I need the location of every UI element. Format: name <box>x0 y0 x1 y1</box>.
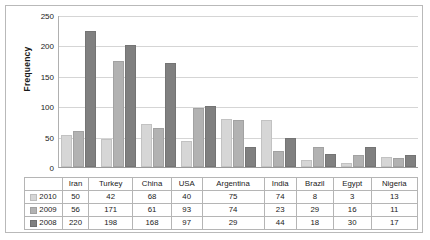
cell-2010-egypt: 3 <box>333 191 371 204</box>
cell-2010-turkey: 42 <box>89 191 133 204</box>
bar-turkey-2009 <box>113 61 124 167</box>
bar-group-india <box>258 16 298 167</box>
cell-2010-usa: 40 <box>171 191 202 204</box>
bar-egypt-2010 <box>341 163 352 167</box>
bar-egypt-2009 <box>353 155 364 167</box>
bar-usa-2009 <box>193 108 204 167</box>
y-tick-150: 150 <box>24 72 54 81</box>
data-table: IranTurkeyChinaUSAArgentinaIndiaBrazilEg… <box>24 177 418 230</box>
cell-2008-argentina: 29 <box>202 217 264 230</box>
bar-brazil-2010 <box>301 160 312 167</box>
table-col-header-turkey: Turkey <box>89 178 133 191</box>
table-col-header-china: China <box>133 178 172 191</box>
bar-group-egypt <box>338 16 378 167</box>
cell-2009-nigeria: 11 <box>371 204 417 217</box>
bar-nigeria-2010 <box>381 157 392 167</box>
cell-2009-argentina: 74 <box>202 204 264 217</box>
legend-cell-2008: 2008 <box>25 217 63 230</box>
table-body: 2010504268407574831320095617161937423291… <box>25 191 418 230</box>
table-col-header-brazil: Brazil <box>296 178 333 191</box>
cell-2009-turkey: 171 <box>89 204 133 217</box>
chart-frame: Frequency 250200150100500 IranTurkeyChin… <box>5 5 423 233</box>
table-col-header-usa: USA <box>171 178 202 191</box>
legend-cell-2010: 2010 <box>25 191 63 204</box>
bar-group-china <box>139 16 179 167</box>
cell-2008-india: 44 <box>264 217 296 230</box>
table-col-header-india: India <box>264 178 296 191</box>
cell-2009-india: 23 <box>264 204 296 217</box>
bar-group-nigeria <box>378 16 418 167</box>
table-row-2010: 20105042684075748313 <box>25 191 418 204</box>
bar-groups <box>59 16 418 167</box>
table-header-row: IranTurkeyChinaUSAArgentinaIndiaBrazilEg… <box>25 178 418 191</box>
bar-group-brazil <box>298 16 338 167</box>
bar-china-2008 <box>165 63 176 167</box>
table-col-header-egypt: Egypt <box>333 178 371 191</box>
legend-label-2008: 2008 <box>39 218 56 227</box>
bar-china-2009 <box>153 128 164 167</box>
plot-area <box>58 16 418 168</box>
bar-turkey-2008 <box>125 45 136 167</box>
cell-2008-brazil: 18 <box>296 217 333 230</box>
table-col-header-argentina: Argentina <box>202 178 264 191</box>
bar-usa-2010 <box>181 141 192 167</box>
cell-2008-china: 168 <box>133 217 172 230</box>
bar-nigeria-2009 <box>393 158 404 167</box>
table-col-header-nigeria: Nigeria <box>371 178 417 191</box>
bar-india-2008 <box>285 138 296 167</box>
table-row-2009: 20095617161937423291611 <box>25 204 418 217</box>
bar-brazil-2008 <box>325 154 336 167</box>
cell-2009-usa: 93 <box>171 204 202 217</box>
cell-2008-turkey: 198 <box>89 217 133 230</box>
legend-swatch-2009-icon <box>30 207 37 214</box>
cell-2009-iran: 56 <box>63 204 89 217</box>
y-axis-tick-labels: 250200150100500 <box>24 16 54 168</box>
y-tick-200: 200 <box>24 42 54 51</box>
bar-egypt-2008 <box>365 147 376 167</box>
bar-china-2010 <box>141 124 152 167</box>
legend-swatch-2010-icon <box>30 194 37 201</box>
cell-2010-china: 68 <box>133 191 172 204</box>
cell-2009-china: 61 <box>133 204 172 217</box>
cell-2008-egypt: 30 <box>333 217 371 230</box>
bar-group-usa <box>179 16 219 167</box>
cell-2010-nigeria: 13 <box>371 191 417 204</box>
bar-group-argentina <box>219 16 259 167</box>
bar-india-2009 <box>273 151 284 167</box>
y-tick-0: 0 <box>24 164 54 173</box>
bar-group-iran <box>59 16 99 167</box>
cell-2010-india: 74 <box>264 191 296 204</box>
cell-2009-brazil: 29 <box>296 204 333 217</box>
bar-argentina-2008 <box>245 147 256 167</box>
y-tick-100: 100 <box>24 103 54 112</box>
y-tick-50: 50 <box>24 133 54 142</box>
y-tick-250: 250 <box>24 12 54 21</box>
bar-usa-2008 <box>205 106 216 167</box>
cell-2008-iran: 220 <box>63 217 89 230</box>
cell-2008-usa: 97 <box>171 217 202 230</box>
table-row-2008: 2008220198168972944183017 <box>25 217 418 230</box>
cell-2010-brazil: 8 <box>296 191 333 204</box>
bar-india-2010 <box>261 120 272 167</box>
plot-area-wrapper: Frequency 250200150100500 <box>6 6 424 178</box>
cell-2010-iran: 50 <box>63 191 89 204</box>
bar-iran-2009 <box>73 131 84 167</box>
bar-iran-2010 <box>61 135 72 167</box>
legend-label-2010: 2010 <box>39 192 56 201</box>
bar-iran-2008 <box>85 31 96 167</box>
bar-argentina-2010 <box>221 119 232 167</box>
legend-label-2009: 2009 <box>39 205 56 214</box>
bar-turkey-2010 <box>101 139 112 167</box>
bar-group-turkey <box>99 16 139 167</box>
table-corner-cell <box>25 178 63 191</box>
cell-2010-argentina: 75 <box>202 191 264 204</box>
cell-2008-nigeria: 17 <box>371 217 417 230</box>
cell-2009-egypt: 16 <box>333 204 371 217</box>
bar-nigeria-2008 <box>405 155 416 167</box>
bar-brazil-2009 <box>313 147 324 167</box>
table-col-header-iran: Iran <box>63 178 89 191</box>
legend-swatch-2008-icon <box>30 220 37 227</box>
legend-cell-2009: 2009 <box>25 204 63 217</box>
bar-argentina-2009 <box>233 120 244 167</box>
